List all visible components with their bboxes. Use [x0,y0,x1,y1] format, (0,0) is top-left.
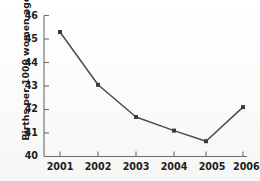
data-point-2003 [134,115,138,119]
data-point-2002 [96,83,100,87]
series-markers [58,30,245,143]
data-point-2006 [241,105,245,109]
data-point-2004 [172,129,176,133]
chart-figure: Births per 1000 women ages 15-19 40 41 4… [0,0,260,181]
plot-area [0,0,260,181]
y-tick-marks [44,16,49,157]
series-line-births [60,32,243,141]
data-point-2001 [58,30,62,34]
x-tick-marks [60,152,243,157]
data-point-2005 [204,139,208,143]
